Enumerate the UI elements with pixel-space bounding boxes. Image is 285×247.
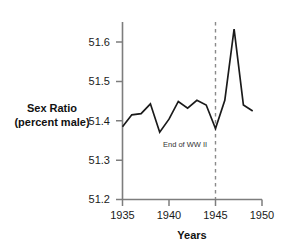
x-tick-label-2: 1945 xyxy=(196,210,236,221)
y-tick-marks xyxy=(116,42,122,200)
y-tick-label-0: 51.2 xyxy=(74,194,110,205)
sex-ratio-line-series xyxy=(123,29,253,132)
x-tick-label-0: 1935 xyxy=(103,210,143,221)
x-tick-label-3: 1950 xyxy=(242,210,282,221)
chart-figure: Sex Ratio (percent male) Years 51.2 51.3… xyxy=(0,0,285,247)
y-axis-title-line1: Sex Ratio xyxy=(27,102,77,114)
end-of-wwii-annotation-label: End of WW II xyxy=(163,140,207,149)
y-tick-label-1: 51.3 xyxy=(74,155,110,166)
y-tick-label-2: 51.4 xyxy=(74,116,110,127)
x-tick-label-1: 1940 xyxy=(149,210,189,221)
x-tick-marks xyxy=(123,200,263,207)
x-axis-title: Years xyxy=(122,229,262,241)
y-tick-label-4: 51.6 xyxy=(74,37,110,48)
y-tick-label-3: 51.5 xyxy=(74,76,110,87)
